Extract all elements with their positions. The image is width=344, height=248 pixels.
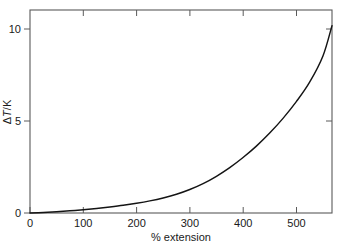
- x-tick-label-300: 300: [181, 217, 199, 229]
- x-tick-labels: 0 100 200 300 400 500: [27, 217, 306, 229]
- chart-figure: 0 100 200 300 400 500 0 5 10 % extension…: [0, 0, 344, 248]
- svg-text:ΔT/K: ΔT/K: [1, 99, 13, 124]
- x-axis-ticks: [30, 207, 297, 213]
- plot-frame: [30, 10, 332, 213]
- y-axis-ticks: [24, 29, 30, 213]
- y-axis-title: ΔT/K: [1, 99, 13, 124]
- x-axis-ticks-top: [83, 10, 296, 16]
- x-tick-label-100: 100: [74, 217, 92, 229]
- x-tick-label-200: 200: [127, 217, 145, 229]
- line-chart-svg: 0 100 200 300 400 500 0 5 10 % extension…: [0, 0, 344, 248]
- y-tick-label-0: 0: [15, 207, 21, 219]
- y-axis-title-unit: /K: [1, 99, 13, 110]
- y-tick-label-10: 10: [9, 23, 21, 35]
- y-tick-label-5: 5: [15, 115, 21, 127]
- x-tick-label-500: 500: [287, 217, 305, 229]
- x-tick-label-0: 0: [27, 217, 33, 229]
- x-axis-title: % extension: [151, 231, 211, 243]
- x-tick-label-400: 400: [234, 217, 252, 229]
- data-series-curve: [30, 26, 332, 213]
